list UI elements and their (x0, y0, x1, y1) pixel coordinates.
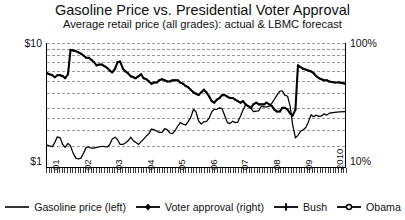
series-marker (80, 53, 82, 55)
series-marker (104, 65, 106, 67)
series-marker (245, 103, 247, 105)
series-marker (198, 94, 200, 96)
chart-legend: Gasoline price (left)Voter approval (rig… (0, 198, 405, 216)
series-marker (253, 103, 255, 105)
x-axis-labels: 0102030405060708092010 (46, 170, 346, 196)
series-marker (237, 100, 239, 102)
series-marker (323, 79, 325, 81)
series-marker (56, 74, 58, 76)
series-marker (334, 82, 336, 84)
series-marker (85, 57, 87, 59)
series-marker (258, 103, 260, 105)
series-marker (114, 68, 116, 70)
series-marker (125, 71, 127, 73)
series-marker (130, 75, 132, 77)
series-marker (200, 91, 202, 93)
legend-item[interactable]: Bush (273, 201, 327, 213)
plot-area (46, 43, 346, 168)
series-marker (326, 79, 328, 81)
series-marker (221, 94, 223, 96)
series-marker (96, 64, 98, 66)
series-marker (208, 96, 210, 98)
series-marker (174, 79, 176, 81)
series-marker (284, 107, 286, 109)
series-marker (64, 77, 66, 79)
series-marker (161, 78, 163, 80)
series-marker (59, 74, 61, 76)
series-marker (166, 81, 168, 83)
series-marker (203, 89, 205, 91)
x-tick-label: 01 (50, 159, 61, 170)
series-marker (122, 68, 124, 70)
legend-label: Voter approval (right) (165, 201, 264, 213)
series-marker (153, 82, 155, 84)
series-marker (185, 85, 187, 87)
legend-marker-line-circle-icon (336, 202, 362, 212)
x-tick (346, 168, 347, 173)
series-marker (190, 89, 192, 91)
chart-title: Gasoline Price vs. Presidential Voter Ap… (0, 2, 405, 18)
series-marker (219, 97, 221, 99)
series-marker (274, 109, 276, 111)
series-marker (109, 70, 111, 72)
y-axis-bottom-label: $1 (2, 155, 42, 167)
series-marker (247, 105, 249, 107)
series-marker (315, 75, 317, 77)
series-marker (305, 69, 307, 71)
series-marker (187, 86, 189, 88)
y2-axis-top-label: 100% (350, 37, 392, 49)
series-marker (83, 55, 85, 57)
series-line (47, 91, 345, 159)
legend-item[interactable]: Obama (336, 201, 401, 213)
legend-marker-line-icon (4, 202, 30, 212)
series-marker (300, 66, 302, 68)
series-marker (158, 79, 160, 81)
series-marker (119, 61, 121, 63)
legend-label: Obama (366, 201, 401, 213)
series-marker (266, 102, 268, 104)
chart-subtitle: Average retail price (all grades): actua… (0, 18, 405, 31)
series-marker (148, 81, 150, 83)
series-marker (193, 91, 195, 93)
legend-item[interactable]: Voter approval (right) (135, 201, 264, 213)
series-marker (271, 105, 273, 107)
series-layer (47, 43, 345, 167)
x-tick-label: 06 (208, 159, 219, 170)
series-marker (232, 97, 234, 99)
series-marker (54, 76, 56, 78)
series-marker (101, 64, 103, 66)
legend-item[interactable]: Gasoline price (left) (4, 201, 126, 213)
series-marker (195, 93, 197, 95)
y-axis-top-label: $10 (2, 37, 42, 49)
series-marker (263, 103, 265, 105)
series-marker (111, 71, 113, 73)
series-marker (242, 100, 244, 102)
series-marker (127, 72, 129, 74)
series-marker (307, 70, 309, 72)
series-marker (143, 77, 145, 79)
legend-marker-line-plus-icon (273, 202, 299, 212)
series-marker (287, 109, 289, 111)
series-marker (310, 71, 312, 73)
series-marker (211, 100, 213, 102)
series-marker (226, 96, 228, 98)
series-marker (292, 115, 294, 117)
series-marker (255, 102, 257, 104)
series-marker (67, 73, 69, 75)
series-marker (151, 83, 153, 85)
series-marker (313, 72, 315, 74)
series-marker (240, 102, 242, 104)
series-marker (75, 50, 77, 52)
series-marker (132, 76, 134, 78)
series-marker (276, 111, 278, 113)
x-tick-label: 04 (145, 159, 156, 170)
series-marker (289, 113, 291, 115)
series-marker (318, 77, 320, 79)
series-marker (260, 103, 262, 105)
series-marker (224, 94, 226, 96)
x-tick-label: 08 (271, 159, 282, 170)
series-marker (297, 64, 299, 66)
series-marker (77, 52, 79, 54)
series-marker (135, 77, 137, 79)
series-marker (205, 91, 207, 93)
